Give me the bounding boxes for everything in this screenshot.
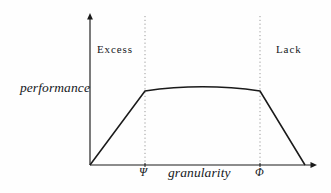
x-tick-label-psi: Ψ — [139, 166, 147, 178]
y-axis-arrowhead — [87, 13, 93, 20]
plot-area — [0, 0, 331, 193]
x-axis-label: granularity — [168, 166, 231, 180]
x-tick-label-phi: Φ — [255, 166, 264, 178]
region-label-lack: Lack — [276, 44, 302, 55]
performance-curve — [90, 87, 305, 165]
y-axis-label: performance — [20, 81, 90, 95]
figure-performance-vs-granularity: performance granularity Excess Lack Ψ Φ — [0, 0, 331, 193]
region-label-excess: Excess — [97, 44, 133, 55]
x-axis-arrowhead — [311, 162, 318, 168]
